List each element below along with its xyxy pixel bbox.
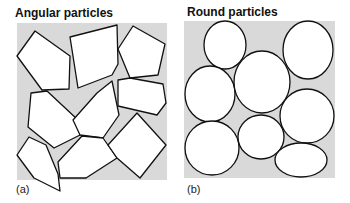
panel-b-label: (b) (187, 183, 200, 195)
panel-a-label: (a) (16, 183, 29, 195)
round-particle (275, 143, 327, 177)
round-particle (204, 21, 246, 69)
angular-particles (17, 25, 166, 191)
particle-diagram (0, 0, 350, 203)
round-particle (234, 51, 290, 113)
round-particle (280, 89, 334, 143)
round-particle (185, 66, 235, 122)
round-particle (283, 21, 333, 79)
round-particle (185, 121, 239, 175)
